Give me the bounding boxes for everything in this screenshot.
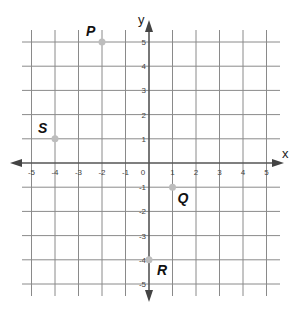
point-label-q: Q	[178, 190, 189, 206]
x-tick-label: -2	[98, 168, 106, 177]
y-axis-label: y	[138, 12, 145, 27]
x-tick-label: 1	[170, 168, 175, 177]
y-tick-label: -1	[139, 183, 147, 192]
point-q	[169, 184, 176, 191]
point-s	[52, 135, 59, 142]
y-tick-label: -2	[139, 207, 147, 216]
x-tick-label: 2	[194, 168, 199, 177]
point-label-p: P	[86, 23, 96, 39]
point-label-r: R	[157, 262, 168, 278]
y-tick-label: 4	[142, 62, 147, 71]
y-axis-up-arrow-icon	[145, 20, 153, 32]
y-tick-label: 1	[142, 135, 147, 144]
x-tick-label: 0	[141, 168, 146, 177]
x-axis-left-arrow-icon	[10, 159, 22, 167]
y-axis-down-arrow-icon	[145, 290, 153, 302]
x-tick-label: 4	[241, 168, 246, 177]
x-tick-label: -4	[51, 168, 59, 177]
coordinate-plane: x y -5-4-3-2-101234554321-1-2-3-4-5 PSQR	[0, 0, 302, 320]
point-label-s: S	[38, 120, 48, 136]
x-tick-label: 3	[217, 168, 222, 177]
x-tick-label: 5	[264, 168, 269, 177]
y-tick-label: 2	[142, 111, 147, 120]
y-tick-label: 3	[142, 86, 147, 95]
y-tick-label: -3	[139, 232, 147, 241]
x-axis-label: x	[282, 146, 289, 161]
x-tick-label: -5	[28, 168, 36, 177]
x-tick-label: -3	[75, 168, 83, 177]
x-tick-label: -1	[122, 168, 130, 177]
point-p	[99, 39, 106, 46]
y-tick-label: 5	[142, 38, 147, 47]
y-tick-label: -4	[139, 256, 147, 265]
point-r	[146, 256, 153, 263]
data-points: PSQR	[38, 23, 189, 278]
y-tick-label: -5	[139, 280, 147, 289]
